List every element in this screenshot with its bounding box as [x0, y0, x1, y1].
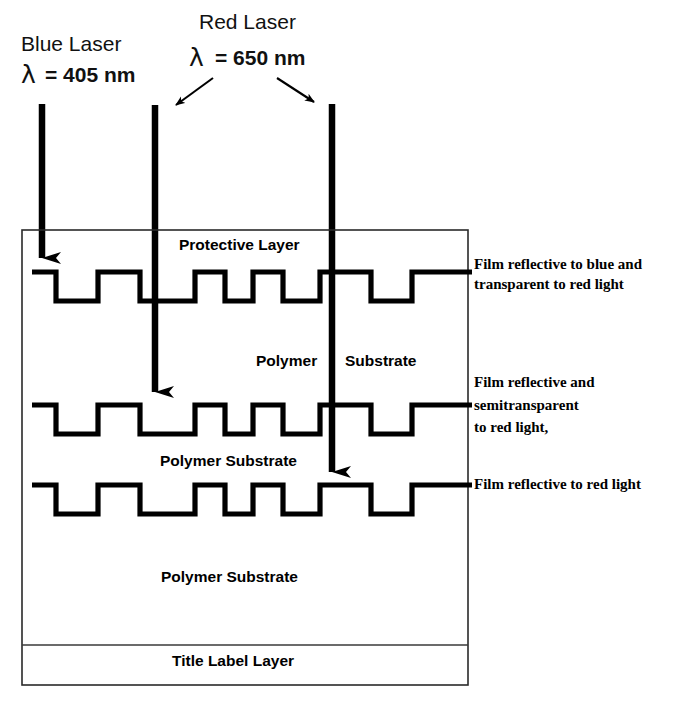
blue-laser-wavelength: = 405 nm [45, 63, 135, 86]
side-annotation-layer-3: Film reflective to red light [474, 476, 641, 492]
red-laser-wavelength: = 650 nm [215, 46, 305, 69]
red-laser-lambda-symbol: λ [189, 43, 204, 72]
canvas-background [0, 0, 690, 702]
diagram-canvas: Blue Laser λ = 405 nm Red Laser λ = 650 … [0, 0, 690, 702]
layer-1-side-label-line-1: Film reflective to blue and [474, 256, 643, 272]
substrate-label-mid: Substrate [345, 352, 417, 369]
blue-laser-title: Blue Laser [21, 32, 121, 55]
layer-1-side-label-line-2: transparent to red light [474, 276, 624, 292]
polymer-label-mid: Polymer [256, 352, 317, 369]
layer-2-side-label-line-2: semitransparent [474, 397, 579, 413]
layer-2-side-label-line-1: Film reflective and [474, 374, 595, 390]
layer-3-side-label-line-1: Film reflective to red light [474, 476, 641, 492]
red-laser-title: Red Laser [199, 10, 296, 33]
protective-layer-label: Protective Layer [179, 236, 300, 253]
layer-2-side-label-line-3: to red light, [474, 419, 549, 435]
title-label-layer-label: Title Label Layer [172, 652, 294, 669]
polymer-substrate-label-lower: Polymer Substrate [161, 568, 298, 585]
blue-laser-lambda-symbol: λ [21, 60, 36, 89]
polymer-substrate-label-upper: Polymer Substrate [160, 452, 297, 469]
optical-disc-diagram: Blue Laser λ = 405 nm Red Laser λ = 650 … [0, 0, 690, 702]
